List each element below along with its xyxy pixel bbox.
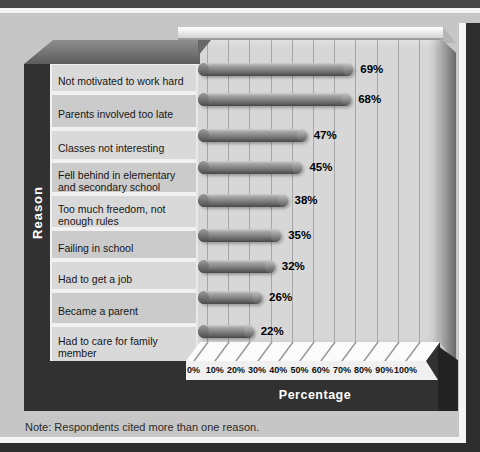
figure-note: Note: Respondents cited more than one re… <box>25 421 445 437</box>
bar-value-label: 22% <box>261 325 284 338</box>
bar-value-label: 35% <box>288 229 311 242</box>
bar <box>198 325 254 338</box>
bar-value-label: 32% <box>282 260 305 273</box>
bar <box>198 63 353 76</box>
bar-value-label: 69% <box>360 63 383 76</box>
bar-value-label: 45% <box>309 161 332 174</box>
bar <box>198 194 288 207</box>
figure-page: Not motivated to work hardParents involv… <box>0 0 480 452</box>
bar-value-label: 47% <box>314 129 337 142</box>
bar <box>198 260 275 273</box>
bar-value-label: 38% <box>295 194 318 207</box>
bar <box>198 161 302 174</box>
bar-value-label: 68% <box>358 93 381 106</box>
bars-layer: 69%68%47%45%38%35%32%26%22% <box>0 0 480 452</box>
bar <box>198 229 281 242</box>
bar <box>198 129 307 142</box>
bar <box>198 93 351 106</box>
bar-value-label: 26% <box>269 291 292 304</box>
bar <box>198 291 262 304</box>
